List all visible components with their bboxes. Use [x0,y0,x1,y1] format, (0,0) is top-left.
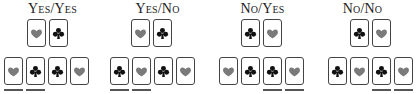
bottom-card-club [263,57,282,85]
heart-icon [222,65,235,78]
bottom-card-heart [394,57,413,85]
bottom-card-club [154,57,173,85]
group-yes-no: Yes/No [105,0,210,94]
top-card-club [49,19,68,47]
card-underline [4,89,23,91]
card-underline [372,89,391,91]
club-icon [353,27,366,40]
top-card-heart [372,19,391,47]
top-card-club [241,19,260,47]
group-label: Yes/Yes [0,1,105,17]
bottom-card-heart [176,57,195,85]
heart-icon [7,65,20,78]
club-icon [29,65,42,78]
card-underline [110,89,129,91]
card-underline [263,89,282,91]
club-icon [266,65,279,78]
bottom-card-club [372,57,391,85]
club-icon [157,65,170,78]
bottom-card-heart [132,57,151,85]
group-label: Yes/No [105,1,210,17]
top-card-club [350,19,369,47]
top-card-heart [263,19,282,47]
club-icon [51,65,64,78]
top-card-club [153,19,172,47]
heart-icon [353,65,366,78]
group-label: No/Yes [210,1,315,17]
heart-icon [134,27,147,40]
bottom-card-heart [219,57,238,85]
group-yes-yes: Yes/Yes [0,0,105,94]
club-icon [375,65,388,78]
bottom-card-heart [4,57,23,85]
bottom-card-club [48,57,67,85]
club-icon [244,65,257,78]
heart-icon [135,65,148,78]
top-card-heart [27,19,46,47]
group-no-yes: No/Yes [210,0,315,94]
heart-icon [375,27,388,40]
card-underline [132,89,151,91]
bottom-card-heart [70,57,89,85]
bottom-card-club [328,57,347,85]
club-icon [113,65,126,78]
bottom-card-club [110,57,129,85]
card-underline [26,89,45,91]
club-icon [244,27,257,40]
heart-icon [266,27,279,40]
club-icon [52,27,65,40]
card-underline [394,89,413,91]
heart-icon [397,65,410,78]
club-icon [156,27,169,40]
card-underline [285,89,304,91]
top-card-heart [131,19,150,47]
bottom-card-heart [350,57,369,85]
heart-icon [179,65,192,78]
heart-icon [288,65,301,78]
group-label: No/No [310,1,415,17]
heart-icon [73,65,86,78]
club-icon [331,65,344,78]
bottom-card-club [26,57,45,85]
bottom-card-heart [285,57,304,85]
group-no-no: No/No [310,0,415,94]
bottom-card-club [241,57,260,85]
heart-icon [30,27,43,40]
